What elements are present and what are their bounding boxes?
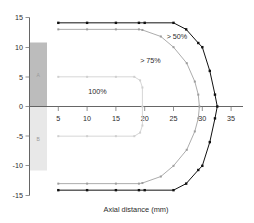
x-tick-label: 15 xyxy=(112,114,120,123)
data-point-marker xyxy=(144,189,146,191)
data-point-marker xyxy=(115,189,117,191)
data-point-marker xyxy=(115,135,117,137)
data-point-marker xyxy=(57,183,59,185)
data-point-marker xyxy=(186,62,188,64)
data-point-marker xyxy=(214,93,216,95)
data-point-marker xyxy=(57,22,59,24)
data-point-marker xyxy=(144,22,146,24)
data-point-marker xyxy=(173,46,175,48)
data-point-marker xyxy=(141,124,143,126)
data-point-marker xyxy=(198,106,200,108)
data-point-marker xyxy=(141,29,143,31)
data-point-marker xyxy=(214,117,216,119)
data-point-marker xyxy=(86,135,88,137)
data-point-marker xyxy=(172,22,174,24)
data-point-marker xyxy=(115,183,117,185)
x-axis-title: Axial distance (mm) xyxy=(104,205,169,214)
data-point-marker xyxy=(115,22,117,24)
data-point-marker xyxy=(138,28,140,30)
data-point-marker xyxy=(57,189,59,191)
data-point-marker xyxy=(209,141,211,143)
data-point-marker xyxy=(173,165,175,167)
data-point-marker xyxy=(138,22,140,24)
x-axis-ticks xyxy=(58,107,231,112)
data-point-marker xyxy=(194,81,196,83)
y-tick-label: 10 xyxy=(15,43,23,52)
data-point-marker xyxy=(185,182,187,184)
data-point-marker xyxy=(201,46,203,48)
contour-annotation-layer: > 50%> 75%100% xyxy=(88,32,188,96)
data-point-marker xyxy=(86,76,88,78)
y-tick-label: 5 xyxy=(19,73,23,82)
y-axis-ticks xyxy=(26,18,30,196)
data-point-marker xyxy=(86,22,88,24)
data-point-marker xyxy=(115,76,117,78)
x-tick-label: 30 xyxy=(198,114,206,123)
data-point-marker xyxy=(197,94,199,96)
data-point-marker xyxy=(172,189,174,191)
data-point-marker xyxy=(209,70,211,72)
data-point-marker xyxy=(186,149,188,151)
data-point-marker xyxy=(139,132,141,134)
data-point-marker xyxy=(194,130,196,132)
data-point-marker xyxy=(57,28,59,30)
data-point-marker xyxy=(141,182,143,184)
x-axis-tick-labels: 5 10 15 20 25 30 35 xyxy=(56,114,235,123)
data-point-marker xyxy=(185,28,187,30)
data-point-marker xyxy=(197,117,199,119)
data-point-marker xyxy=(86,28,88,30)
contour-annotation: 100% xyxy=(88,87,107,96)
data-point-marker xyxy=(141,87,143,89)
data-point-marker xyxy=(133,76,135,78)
y-tick-label: 0 xyxy=(19,102,23,111)
data-point-marker xyxy=(57,76,59,78)
x-tick-label: 35 xyxy=(227,114,235,123)
data-point-marker xyxy=(216,105,218,107)
x-tick-label: 25 xyxy=(170,114,178,123)
data-point-marker xyxy=(86,189,88,191)
chart-figure: A B 15 10 5 0 -5 -10 -15 xyxy=(0,0,254,223)
x-tick-label: 20 xyxy=(141,114,149,123)
data-point-marker xyxy=(57,135,59,137)
x-tick-label: 5 xyxy=(56,114,60,123)
data-point-marker xyxy=(133,135,135,137)
y-axis-tick-labels: 15 10 5 0 -5 -10 -15 xyxy=(13,13,23,200)
data-point-marker xyxy=(160,35,162,37)
data-point-marker xyxy=(160,176,162,178)
contour-annotation: > 50% xyxy=(167,32,188,41)
y-tick-label: -5 xyxy=(17,132,23,141)
data-point-marker xyxy=(115,28,117,30)
data-point-marker xyxy=(86,183,88,185)
data-point-marker xyxy=(197,169,199,171)
y-tick-label: -15 xyxy=(13,191,23,200)
data-point-marker xyxy=(138,183,140,185)
y-tick-label: -10 xyxy=(13,161,23,170)
contour-plot-svg: A B 15 10 5 0 -5 -10 -15 xyxy=(0,0,254,223)
data-point-marker xyxy=(138,189,140,191)
x-tick-label: 10 xyxy=(83,114,91,123)
contour-annotation: > 75% xyxy=(140,56,161,65)
data-point-marker xyxy=(197,42,199,44)
data-point-marker xyxy=(141,106,143,108)
data-point-marker xyxy=(201,165,203,167)
y-tick-label: 15 xyxy=(15,13,23,22)
data-point-marker xyxy=(139,79,141,81)
